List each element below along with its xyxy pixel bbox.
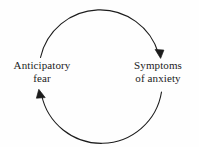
node-label-line-1: Symptoms [118,59,198,72]
cycle-diagram: Anticipatory fear Symptoms of anxiety [0,0,199,147]
node-label-line-2: of anxiety [118,72,198,85]
node-label-anticipatory-fear: Anticipatory fear [2,59,82,85]
node-label-symptoms-of-anxiety: Symptoms of anxiety [118,59,198,85]
top-arc-arrowhead-icon [155,49,164,58]
top-arc-path [41,10,159,58]
bottom-arc-path [42,92,162,143]
node-label-line-1: Anticipatory [2,59,82,72]
node-label-line-2: fear [2,72,82,85]
bottom-arc-arrowhead-icon [36,89,45,98]
